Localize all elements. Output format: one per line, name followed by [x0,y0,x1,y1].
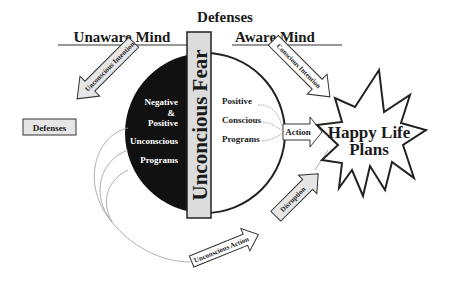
happy-life-plans-star: Happy Life Plans [317,70,426,196]
unconscious-fear-label: Unconcious Fear [188,49,212,200]
flow-line [112,222,190,262]
flow-line [106,170,128,222]
unconscious-action-label: Unconscious Action [193,235,250,264]
diagram-canvas: Defenses Unaware Mind Aware Mind Unconci… [0,0,449,284]
conscious-intention-label: Conscious Intention [274,42,322,90]
unconscious-line-unconscious: Unconscious [130,136,179,146]
defenses-box: Defenses [23,119,76,135]
conscious-line-positive: Positive [222,96,252,106]
unconscious-action-arrow: Unconscious Action [187,223,263,272]
action-arrow: Action [283,117,322,147]
goal-line2: Plans [349,140,389,159]
unaware-mind-header: Unaware Mind [74,29,171,45]
unconscious-intention-label: Unconscious Intention [84,40,137,93]
flow-line [94,128,128,222]
disruption-arrow: Disruption [267,165,328,226]
conscious-line-conscious: Conscious [222,115,262,125]
unconscious-line-programs: Programs [140,155,178,165]
action-label: Action [285,127,311,137]
conscious-line-programs: Programs [222,134,260,144]
conscious-half [205,53,285,213]
unconscious-line-positive: Positive [148,118,178,128]
defenses-box-label: Defenses [33,123,67,133]
unconscious-line-negative: Negative [145,97,179,107]
defenses-header: Defenses [197,9,253,25]
unconscious-line-amp: & [168,108,176,118]
